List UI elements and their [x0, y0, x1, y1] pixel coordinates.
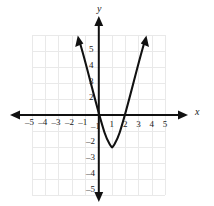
- y-axis-down-arrow: [94, 192, 103, 202]
- x-tick-label-neg1: –1: [78, 118, 87, 127]
- y-axis: [94, 16, 103, 202]
- y-tick-label-neg3: –3: [86, 153, 95, 162]
- x-axis-left-arrow: [10, 111, 20, 120]
- x-axis-right-arrow: [178, 111, 188, 120]
- y-axis-up-arrow: [94, 16, 103, 26]
- y-tick-label-2: 2: [89, 93, 94, 102]
- x-tick-label-5: 5: [163, 120, 168, 129]
- x-tick-label-neg3: –3: [52, 118, 61, 127]
- y-tick-label-5: 5: [89, 45, 94, 54]
- y-tick-label-neg4: –4: [86, 169, 95, 178]
- y-tick-label-4: 4: [89, 61, 94, 70]
- x-axis-label: x: [195, 107, 199, 117]
- x-tick-label-neg4: –4: [38, 118, 47, 127]
- y-tick-label-neg5: –5: [86, 185, 95, 194]
- y-tick-label-3: 3: [89, 77, 94, 86]
- y-axis-label: y: [97, 4, 101, 14]
- x-tick-label-3: 3: [136, 120, 141, 129]
- x-tick-label-neg2: –2: [65, 118, 74, 127]
- x-tick-label-neg5: –5: [25, 118, 34, 127]
- curve-left-arrow: [75, 36, 83, 48]
- x-tick-label-1: 1: [110, 120, 115, 129]
- graph-canvas: [0, 0, 214, 206]
- y-tick-label-neg2: –2: [86, 137, 95, 146]
- x-tick-label-4: 4: [150, 120, 155, 129]
- x-tick-label-2: 2: [123, 120, 128, 129]
- coordinate-plane-graph: –5 –4 –3 –2 –1 1 2 3 4 5 5 4 3 2 –1 –2 –…: [0, 0, 214, 206]
- curve-right-arrow: [141, 36, 149, 48]
- y-tick-label-neg1: –1: [91, 122, 100, 131]
